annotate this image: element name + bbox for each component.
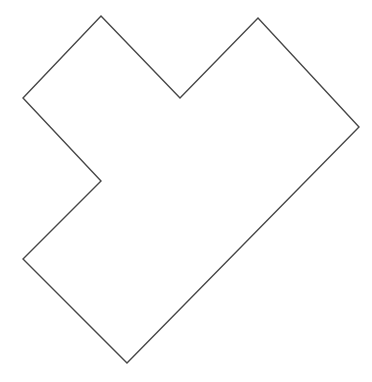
heart-polygon-outline	[23, 16, 359, 363]
drawing-canvas	[0, 0, 372, 382]
shape-svg	[0, 0, 372, 382]
